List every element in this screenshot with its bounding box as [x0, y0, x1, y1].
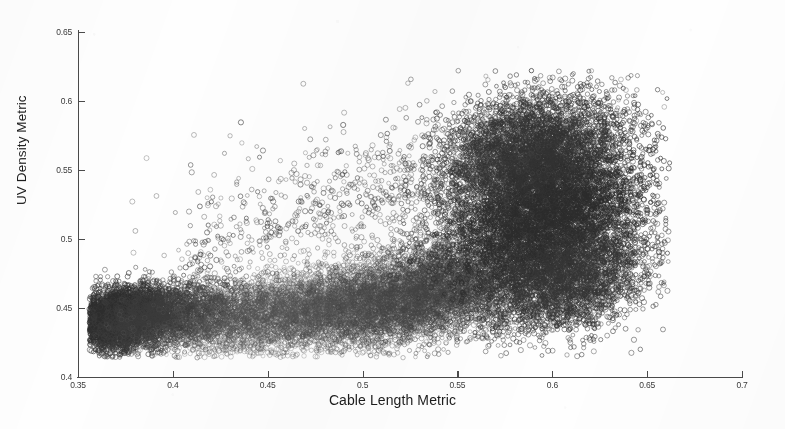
x-axis-label: Cable Length Metric [0, 392, 785, 408]
x-tick [742, 371, 743, 377]
x-tick-label: 0.4 [167, 380, 178, 390]
x-tick-label: 0.6 [547, 380, 558, 390]
y-tick-label: 0.6 [61, 96, 72, 106]
scatter-plot-figure: 0.350.40.450.50.550.60.650.70.40.450.50.… [0, 0, 785, 429]
x-tick [647, 371, 648, 377]
x-tick [363, 371, 364, 377]
y-tick-label: 0.55 [56, 165, 72, 175]
x-tick [173, 371, 174, 377]
y-axis-spine [78, 30, 79, 378]
x-tick [268, 371, 269, 377]
x-tick-label: 0.65 [639, 380, 655, 390]
y-tick-label: 0.5 [61, 234, 72, 244]
x-tick-label: 0.35 [70, 380, 86, 390]
scatter-points-layer [0, 0, 785, 429]
x-tick-label: 0.7 [736, 380, 747, 390]
y-tick [79, 377, 85, 378]
y-axis-label: UV Density Metric [14, 95, 29, 205]
x-tick-label: 0.55 [450, 380, 466, 390]
x-tick [552, 371, 553, 377]
y-tick-label: 0.4 [61, 372, 72, 382]
x-tick [457, 371, 458, 377]
y-tick [79, 170, 85, 171]
x-tick-label: 0.45 [260, 380, 276, 390]
y-tick [79, 101, 85, 102]
y-tick [79, 32, 85, 33]
x-tick-label: 0.5 [357, 380, 368, 390]
y-tick [79, 308, 85, 309]
y-tick-label: 0.65 [56, 27, 72, 37]
y-tick [79, 239, 85, 240]
x-axis-spine [77, 377, 743, 378]
y-tick-label: 0.45 [56, 303, 72, 313]
